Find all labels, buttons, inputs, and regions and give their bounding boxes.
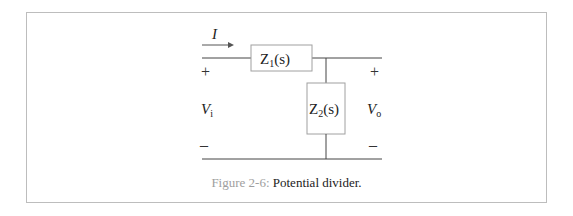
current-label: I [211,26,218,42]
caption-text: Potential divider. [270,175,362,190]
figure-caption: Figure 2-6: Potential divider. [0,175,573,191]
vin-plus: + [201,63,210,80]
z1-label: Z1(s) [260,51,290,69]
vout-label: Vo [367,101,381,119]
z2-label: Z2(s) [309,101,339,119]
vin-label: Vi [201,101,213,119]
current-arrow-icon [202,42,234,48]
caption-label: Figure 2-6: [211,175,269,190]
vout-plus: + [370,63,379,80]
vout-minus: – [368,136,378,153]
vin-minus: – [199,136,209,153]
